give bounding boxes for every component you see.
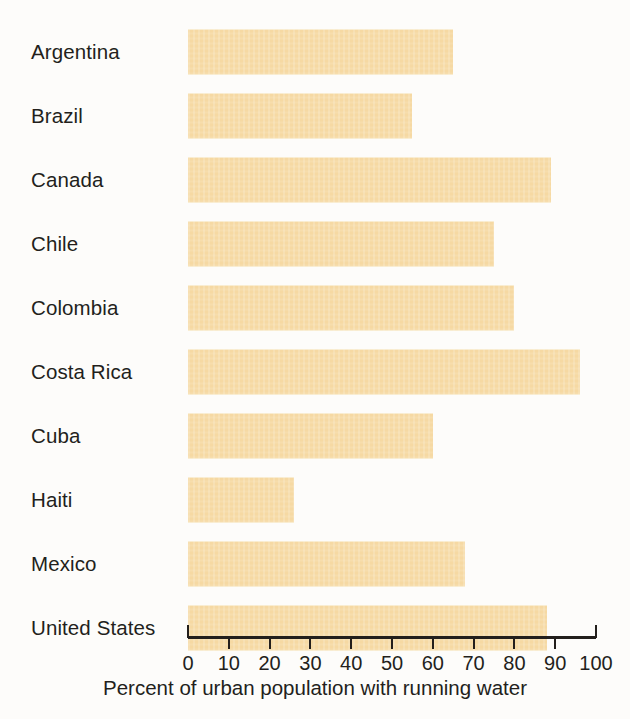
bar-row: Argentina	[0, 20, 630, 84]
bar-row: United States	[0, 596, 630, 660]
bar-row: Haiti	[0, 468, 630, 532]
bar-row: Mexico	[0, 532, 630, 596]
bar-row: Canada	[0, 148, 630, 212]
bar-track	[188, 414, 596, 459]
bar	[188, 542, 465, 587]
bar-chart-plot-area: ArgentinaBrazilCanadaChileColombiaCosta …	[0, 0, 630, 719]
x-axis-tick	[595, 625, 597, 638]
bar-category-label: Chile	[31, 232, 78, 256]
x-axis-tick	[554, 636, 556, 649]
bar-track	[188, 94, 596, 139]
bar-row: Colombia	[0, 276, 630, 340]
bar-track	[188, 222, 596, 267]
bar-category-label: Canada	[31, 168, 103, 192]
bar	[188, 478, 294, 523]
x-axis-tick	[187, 625, 189, 638]
bar	[188, 94, 412, 139]
bar-row: Chile	[0, 212, 630, 276]
bar-row: Costa Rica	[0, 340, 630, 404]
bar-category-label: Brazil	[31, 104, 83, 128]
bar	[188, 414, 433, 459]
bar-category-label: Costa Rica	[31, 360, 132, 384]
x-axis: 0102030405060708090100	[188, 636, 596, 637]
bar	[188, 158, 551, 203]
bar	[188, 286, 514, 331]
bar-track	[188, 158, 596, 203]
bar-category-label: Haiti	[31, 488, 73, 512]
x-axis-tick	[228, 636, 230, 649]
bar-track	[188, 350, 596, 395]
bar-category-label: Cuba	[31, 424, 80, 448]
bar-category-label: Argentina	[31, 40, 120, 64]
x-axis-tick	[473, 636, 475, 649]
x-axis-tick	[350, 636, 352, 649]
bar-category-label: United States	[31, 616, 155, 640]
x-axis-tick	[269, 636, 271, 649]
bar-track	[188, 542, 596, 587]
x-axis-tick	[513, 636, 515, 649]
chart-page: ArgentinaBrazilCanadaChileColombiaCosta …	[0, 0, 630, 719]
bar	[188, 350, 580, 395]
x-axis-tick	[309, 636, 311, 649]
bar-category-label: Colombia	[31, 296, 118, 320]
bar-row: Cuba	[0, 404, 630, 468]
x-axis-tick	[432, 636, 434, 649]
x-axis-tick	[391, 636, 393, 649]
x-axis-tick-label: 100	[566, 652, 626, 675]
bar-row: Brazil	[0, 84, 630, 148]
bar	[188, 222, 494, 267]
bar-category-label: Mexico	[31, 552, 97, 576]
bar-track	[188, 30, 596, 75]
bar-track	[188, 478, 596, 523]
bar-track	[188, 286, 596, 331]
bar	[188, 30, 453, 75]
bar	[188, 606, 547, 651]
x-axis-title: Percent of urban population with running…	[0, 676, 630, 700]
